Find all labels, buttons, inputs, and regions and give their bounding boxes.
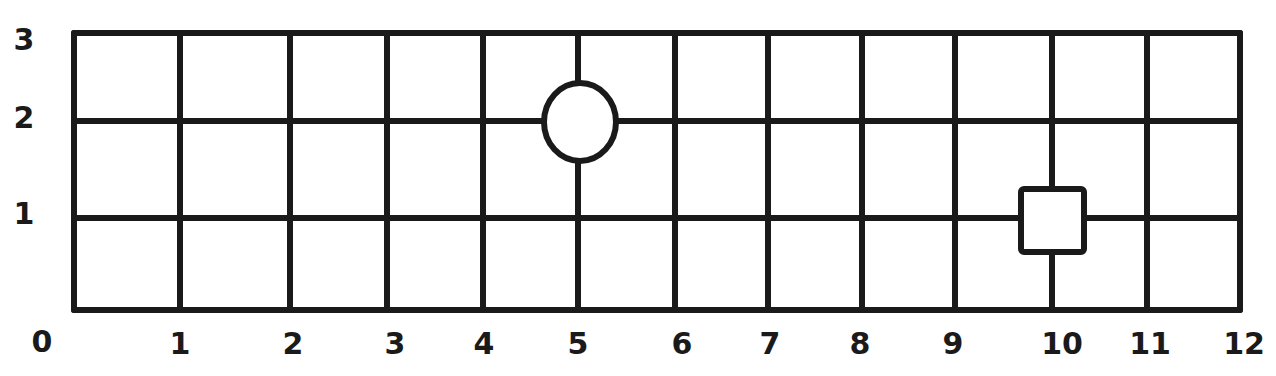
circle-marker (544, 83, 616, 161)
grid-lines (74, 33, 1240, 310)
origin-label: 0 (32, 327, 53, 357)
x-tick-label-2: 2 (283, 329, 304, 359)
x-tick-label-3: 3 (385, 329, 406, 359)
x-tick-label-5: 5 (568, 329, 589, 359)
y-tick-label-1: 1 (14, 199, 35, 229)
y-tick-label-2: 2 (14, 103, 35, 133)
x-tick-label-11: 11 (1129, 329, 1171, 359)
square-marker (1021, 189, 1084, 252)
x-tick-label-12: 12 (1223, 329, 1265, 359)
y-tick-label-3: 3 (14, 25, 35, 55)
x-tick-label-1: 1 (170, 329, 191, 359)
x-tick-label-9: 9 (943, 329, 964, 359)
x-tick-label-10: 10 (1041, 329, 1083, 359)
x-tick-label-4: 4 (474, 329, 495, 359)
x-tick-label-7: 7 (760, 329, 781, 359)
markers (544, 83, 1084, 252)
x-tick-label-6: 6 (672, 329, 693, 359)
grid-diagram (0, 0, 1276, 376)
x-tick-label-8: 8 (850, 329, 871, 359)
